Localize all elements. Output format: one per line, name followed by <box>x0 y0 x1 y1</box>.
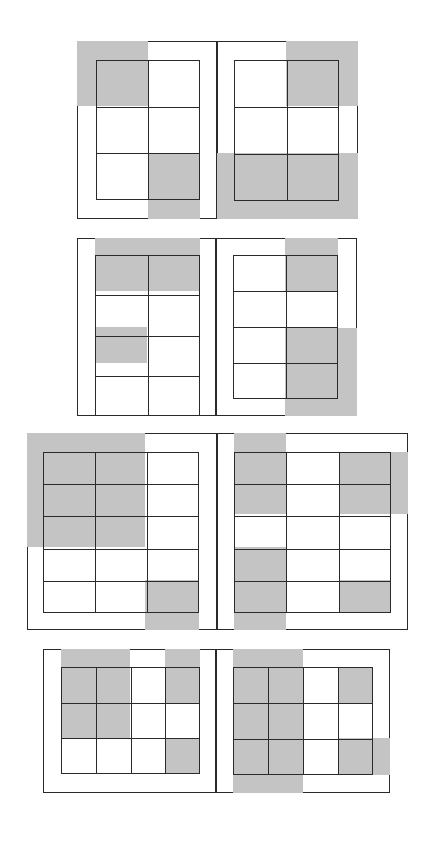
right-page-frame <box>216 649 390 793</box>
grid-column-line <box>338 668 339 774</box>
grid-row-line <box>62 703 199 704</box>
grid-row-line <box>234 291 337 292</box>
grid-column-line <box>96 668 97 773</box>
left-page-frame <box>77 238 216 416</box>
inner-grid <box>233 667 373 775</box>
right-page-frame <box>217 41 358 219</box>
grid-column-line <box>165 668 166 773</box>
grid-row-line <box>44 549 198 550</box>
diagram-panel-3 <box>27 433 408 630</box>
grid-column-line <box>148 61 149 199</box>
grid-row-line <box>97 153 199 154</box>
grid-column-line <box>131 668 132 773</box>
grid-row-line <box>62 738 199 739</box>
grid-row-line <box>44 581 198 582</box>
inner-grid <box>61 667 200 774</box>
left-page-frame <box>27 433 217 630</box>
grid-row-line <box>235 484 390 485</box>
grid-column-line <box>268 668 269 774</box>
grid-row-line <box>234 703 372 704</box>
grid-column-line <box>287 61 288 200</box>
inner-grid <box>43 452 199 613</box>
diagram-panel-1 <box>77 41 358 219</box>
grid-row-line <box>96 336 199 337</box>
grid-row-line <box>235 154 338 155</box>
grid-column-line <box>147 453 148 612</box>
right-page-frame <box>216 238 357 416</box>
grid-column-line <box>303 668 304 774</box>
right-page-frame <box>217 433 408 630</box>
grid-row-line <box>235 516 390 517</box>
grid-row-line <box>235 107 338 108</box>
grid-row-line <box>97 107 199 108</box>
grid-row-line <box>234 327 337 328</box>
grid-column-line <box>286 453 287 612</box>
left-page-frame <box>43 649 216 793</box>
inner-grid <box>233 255 338 399</box>
inner-grid <box>234 452 391 613</box>
diagram-panel-2 <box>77 238 357 416</box>
grid-row-line <box>235 549 390 550</box>
grid-row-line <box>234 363 337 364</box>
grid-row-line <box>234 739 372 740</box>
grid-row-line <box>44 516 198 517</box>
grid-row-line <box>235 581 390 582</box>
inner-grid <box>96 60 200 200</box>
inner-grid <box>95 255 200 416</box>
diagram-panel-4 <box>43 649 390 793</box>
left-page-frame <box>77 41 217 219</box>
grid-column-line <box>95 453 96 612</box>
inner-grid <box>234 60 339 201</box>
grid-row-line <box>96 376 199 377</box>
grid-row-line <box>44 484 198 485</box>
grid-column-line <box>339 453 340 612</box>
grid-row-line <box>96 295 199 296</box>
